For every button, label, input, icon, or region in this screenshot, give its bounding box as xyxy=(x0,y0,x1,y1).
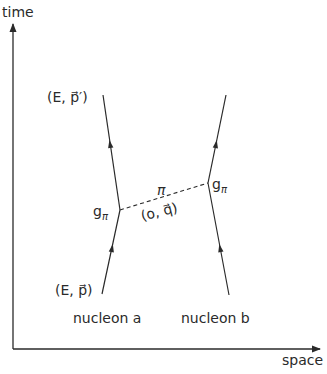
nucleon-b-incoming-line xyxy=(208,183,229,295)
pion-label: π xyxy=(157,183,165,197)
final-state-label: (E, p⃗′) xyxy=(47,90,88,104)
nucleon-a-incoming-line xyxy=(102,210,120,294)
nucleon-a-outgoing-line xyxy=(103,95,120,210)
space-axis-label: space xyxy=(282,353,323,367)
left-vertex-coupling: gπ xyxy=(93,204,108,218)
nucleon-b-outgoing-line xyxy=(208,95,226,183)
time-axis-label: time xyxy=(2,5,34,19)
nucleon-b-label: nucleon b xyxy=(181,311,250,325)
right-vertex-coupling: gπ xyxy=(212,177,227,191)
initial-state-label: (E, p⃗) xyxy=(55,283,93,297)
nucleon-a-label: nucleon a xyxy=(73,311,141,325)
